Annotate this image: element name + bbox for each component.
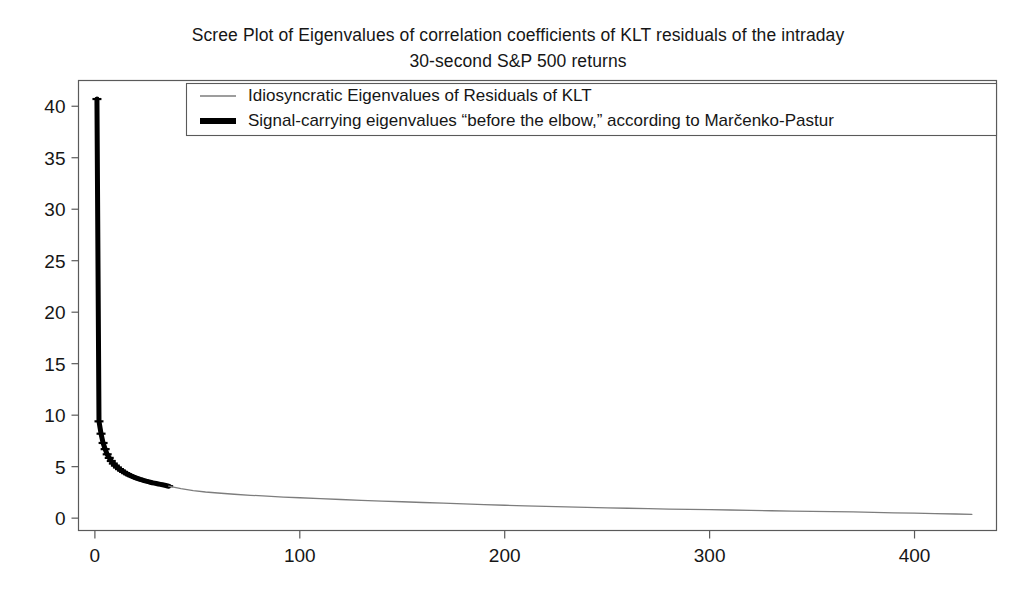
x-tick-label: 100 — [284, 545, 316, 566]
plot-frame — [79, 81, 997, 531]
x-tick-label: 200 — [489, 545, 521, 566]
x-tick-label: 400 — [899, 545, 931, 566]
x-tick-label: 0 — [90, 545, 101, 566]
y-tick-label: 15 — [44, 354, 65, 375]
legend-label: Signal-carrying eigenvalues “before the … — [248, 111, 834, 130]
legend-label: Idiosyncratic Eigenvalues of Residuals o… — [248, 86, 592, 105]
x-tick-label: 300 — [694, 545, 726, 566]
y-tick-label: 0 — [55, 508, 66, 529]
y-tick-label: 20 — [44, 302, 65, 323]
scree-plot-canvas: 0510152025303540 0100200300400 Idiosyncr… — [0, 0, 1036, 595]
y-tick-label: 10 — [44, 405, 65, 426]
y-tick-label: 30 — [44, 199, 65, 220]
x-axis: 0100200300400 — [90, 531, 931, 566]
y-tick-label: 35 — [44, 148, 65, 169]
y-tick-label: 5 — [55, 457, 66, 478]
scree-plot-figure: Scree Plot of Eigenvalues of correlation… — [0, 0, 1036, 595]
legend: Idiosyncratic Eigenvalues of Residuals o… — [187, 84, 997, 136]
y-axis: 0510152025303540 — [44, 96, 78, 529]
y-tick-label: 25 — [44, 251, 65, 272]
y-tick-label: 40 — [44, 96, 65, 117]
